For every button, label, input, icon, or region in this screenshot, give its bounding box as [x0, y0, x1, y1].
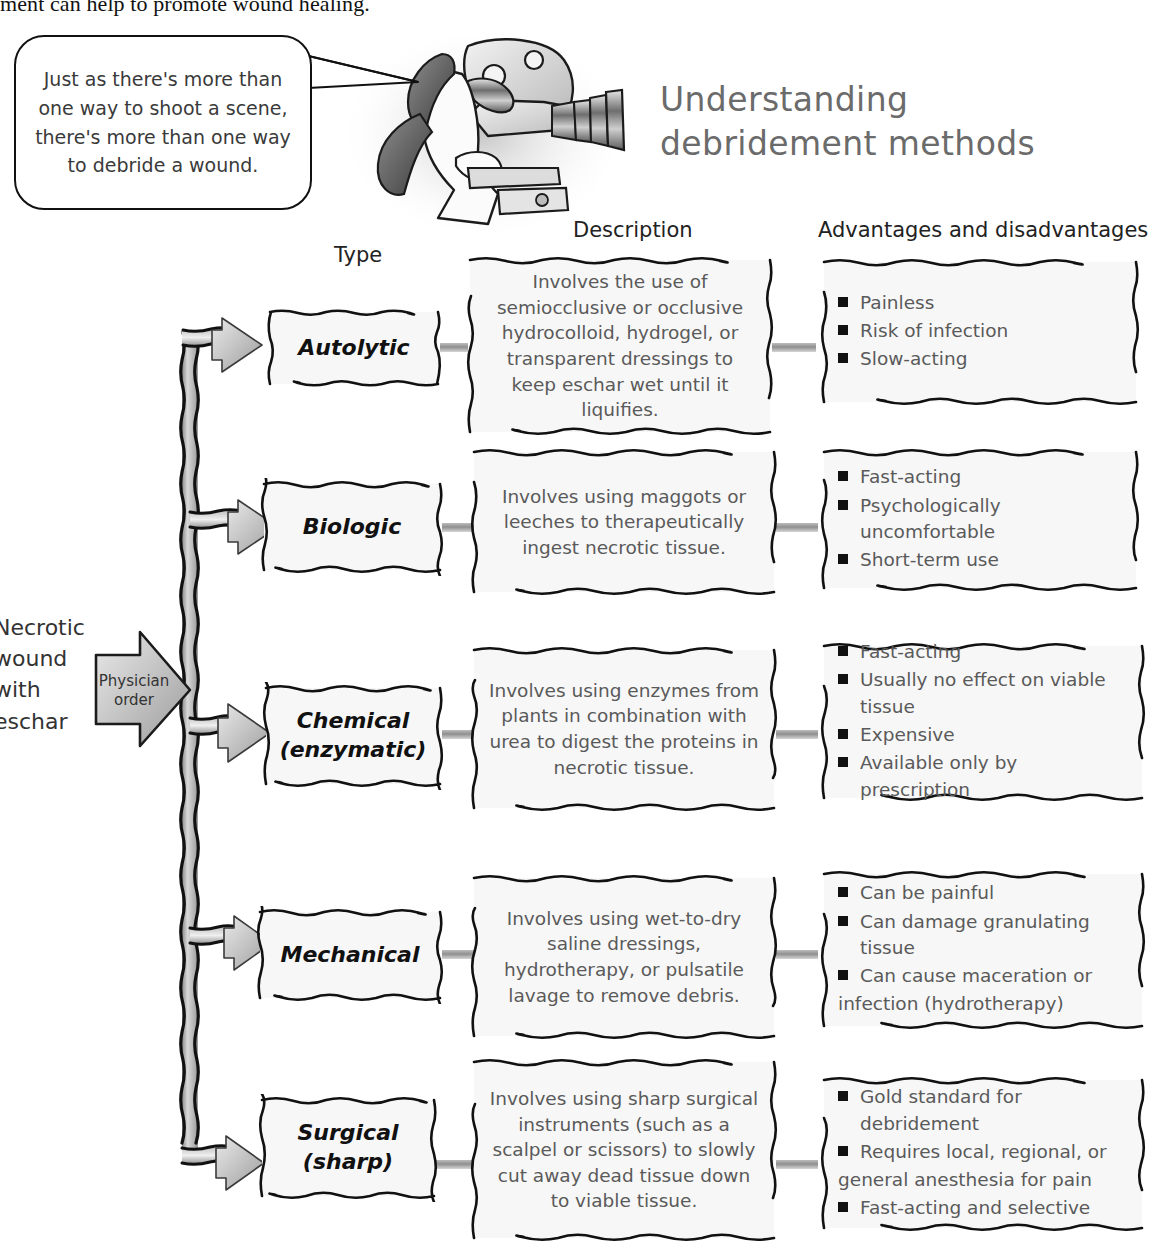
list-item-text: Expensive	[860, 724, 955, 745]
type-box-label-main: Chemical	[266, 707, 440, 736]
advantages-list-wrap: Fast-acting Usually no effect on viable …	[824, 639, 1142, 805]
type-box-label: Surgical (sharp)	[262, 1119, 434, 1176]
advantages-list-wrap: Gold standard for debridement Requires l…	[824, 1084, 1142, 1223]
connector-nub	[440, 343, 468, 352]
bullet-icon	[838, 970, 848, 980]
advantages-list-wrap: Painless Risk of infection Slow-acting	[824, 290, 1136, 375]
type-box-label: Biologic	[264, 513, 440, 542]
advantages-box-mechanical: Can be painful Can damage granulating ti…	[824, 874, 1142, 1026]
description-text: Involves using sharp surgical instrument…	[474, 1086, 774, 1214]
advantages-list: Fast-acting Psychologically uncomfortabl…	[838, 464, 1126, 573]
bullet-icon	[838, 674, 848, 684]
advantages-list: Can be painful Can damage granulating ti…	[838, 880, 1132, 1017]
type-box-biologic[interactable]: Biologic	[264, 484, 440, 570]
description-box-biologic: Involves using maggots or leeches to the…	[474, 452, 774, 592]
description-text: Involves using enzymes from plants in co…	[474, 678, 774, 780]
list-item: Requires local, regional, or	[838, 1139, 1132, 1165]
list-item: Gold standard for debridement	[838, 1084, 1132, 1137]
advantages-box-chemical: Fast-acting Usually no effect on viable …	[824, 646, 1142, 798]
list-item-text: Fast-acting	[860, 466, 961, 487]
description-box-mechanical: Involves using wet-to-dry saline dressin…	[474, 878, 774, 1036]
bullet-icon	[838, 646, 848, 656]
bullet-icon	[838, 757, 848, 767]
type-box-label-sub: (enzymatic)	[266, 736, 440, 765]
list-item-text: Psychologically uncomfortable	[860, 495, 1001, 542]
advantages-list: Painless Risk of infection Slow-acting	[838, 290, 1126, 373]
bullet-icon	[838, 729, 848, 739]
list-item: Short-term use	[838, 547, 1126, 573]
bullet-icon	[838, 471, 848, 481]
list-item: Can damage granulating tissue	[838, 909, 1132, 962]
description-box-autolytic: Involves the use of semiocclusive or occ…	[470, 260, 770, 432]
list-item-text: Short-term use	[860, 549, 999, 570]
type-box-autolytic[interactable]: Autolytic	[270, 312, 438, 384]
list-item: Available only by prescription	[838, 750, 1132, 803]
type-box-chemical[interactable]: Chemical (enzymatic)	[266, 688, 440, 784]
type-box-label-sub: (sharp)	[262, 1148, 434, 1177]
list-item: Can be painful	[838, 880, 1132, 906]
bullet-icon	[838, 500, 848, 510]
speech-balloon-text: Just as there's more than one way to sho…	[16, 65, 310, 181]
connector-nub	[776, 950, 818, 959]
bullet-icon	[838, 554, 848, 564]
page-title-line1: Understanding	[660, 78, 1130, 122]
description-text: Involves using wet-to-dry saline dressin…	[474, 906, 774, 1008]
column-header-advantages: Advantages and disadvantages	[818, 218, 1148, 242]
connector-nub	[776, 523, 818, 532]
list-item-text: Gold standard for debridement	[860, 1086, 1022, 1133]
list-item: Fast-acting	[838, 639, 1132, 665]
page-title-line2: debridement methods	[660, 122, 1130, 166]
list-item: Psychologically uncomfortable	[838, 493, 1126, 546]
list-item: Can cause maceration or	[838, 963, 1132, 989]
description-box-chemical: Involves using enzymes from plants in co…	[474, 650, 774, 808]
list-item-text: general anesthesia for pain	[838, 1169, 1092, 1190]
list-item-text: Can damage granulating tissue	[860, 911, 1090, 958]
type-box-label: Mechanical	[260, 941, 440, 970]
connector-nub	[776, 730, 818, 739]
type-box-mechanical[interactable]: Mechanical	[260, 912, 440, 998]
type-box-label-main: Surgical	[262, 1119, 434, 1148]
list-item: Fast-acting	[838, 464, 1126, 490]
speech-balloon: Just as there's more than one way to sho…	[14, 35, 312, 210]
description-text: Involves using maggots or leeches to the…	[474, 484, 774, 561]
list-item-text: Available only by prescription	[860, 752, 1017, 799]
description-box-surgical: Involves using sharp surgical instrument…	[474, 1062, 774, 1238]
speech-balloon-tail	[300, 52, 420, 92]
advantages-box-biologic: Fast-acting Psychologically uncomfortabl…	[824, 452, 1136, 588]
list-item: Expensive	[838, 722, 1132, 748]
type-box-label: Autolytic	[270, 334, 438, 363]
list-item-text: infection (hydrotherapy)	[838, 993, 1064, 1014]
bullet-icon	[838, 325, 848, 335]
list-item-continuation: infection (hydrotherapy)	[838, 991, 1132, 1017]
bullet-icon	[838, 916, 848, 926]
list-item-text: Requires local, regional, or	[860, 1141, 1107, 1162]
list-item-text: Risk of infection	[860, 320, 1008, 341]
type-box-surgical[interactable]: Surgical (sharp)	[262, 1100, 434, 1196]
physician-order-label: Physician order	[96, 672, 172, 710]
list-item: Slow-acting	[838, 346, 1126, 372]
list-item-text: Can be painful	[860, 882, 994, 903]
list-item-text: Fast-acting and selective	[860, 1197, 1090, 1218]
list-item: Risk of infection	[838, 318, 1126, 344]
connector-nub	[772, 343, 816, 352]
list-item: Painless	[838, 290, 1126, 316]
type-box-label: Chemical (enzymatic)	[266, 707, 440, 764]
connector-nub	[442, 523, 474, 532]
list-item-continuation: general anesthesia for pain	[838, 1167, 1132, 1193]
list-item-text: Slow-acting	[860, 348, 967, 369]
description-text: Involves the use of semiocclusive or occ…	[470, 269, 770, 422]
page-title: Understanding debridement methods	[660, 78, 1130, 166]
connector-nub	[436, 1160, 474, 1169]
advantages-box-autolytic: Painless Risk of infection Slow-acting	[824, 262, 1136, 402]
advantages-list: Gold standard for debridement Requires l…	[838, 1084, 1132, 1221]
connector-nub	[776, 1160, 818, 1169]
advantages-list-wrap: Can be painful Can damage granulating ti…	[824, 880, 1142, 1019]
bullet-icon	[838, 887, 848, 897]
advantages-list: Fast-acting Usually no effect on viable …	[838, 639, 1132, 803]
advantages-list-wrap: Fast-acting Psychologically uncomfortabl…	[824, 464, 1136, 575]
list-item-text: Can cause maceration or	[860, 965, 1092, 986]
bullet-icon	[838, 1091, 848, 1101]
list-item-text: Usually no effect on viable tissue	[860, 669, 1106, 716]
bullet-icon	[838, 297, 848, 307]
page-body-text: ment can help to promote wound healing.	[0, 0, 370, 17]
